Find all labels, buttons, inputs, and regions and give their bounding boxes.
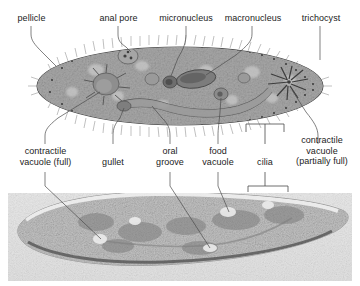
label-line-1: food xyxy=(194,146,242,157)
contractile-vacuole-partial-structure xyxy=(268,66,308,100)
label-line-1: contractile xyxy=(286,135,358,146)
trichocyst-dots xyxy=(49,45,314,127)
leader-oral-groove-up xyxy=(152,106,170,144)
leader-food-vacuole-down xyxy=(218,172,229,212)
food-vacuole-structure xyxy=(145,73,250,100)
label-food-vacuole: food vacuole xyxy=(194,146,242,167)
micrograph-cell-body xyxy=(18,192,348,266)
micronucleus-structure xyxy=(163,76,177,88)
bracket-cilia-illustration xyxy=(246,124,284,144)
label-pellicle: pellicle xyxy=(4,13,59,24)
macronucleus-structure xyxy=(175,67,217,90)
label-line-2: vacuole xyxy=(194,157,242,168)
label-trichocyst: trichocyst xyxy=(290,13,352,24)
leader-pellicle xyxy=(31,26,56,66)
leader-anal-pore xyxy=(118,26,131,52)
leader-lines-bottom-down xyxy=(45,172,288,248)
label-line-1: gullet xyxy=(88,157,138,168)
paramecium-labeled-figure: pellicle anal pore micronucleus macronuc… xyxy=(0,0,360,286)
label-line-1: contractile xyxy=(8,146,83,157)
cell-body xyxy=(37,47,323,125)
bracket-cilia-photograph xyxy=(248,172,288,192)
micrograph-panel xyxy=(8,192,352,281)
label-line-2: vacuole xyxy=(286,146,358,157)
leader-oral-groove-down xyxy=(170,172,210,248)
oral-groove-gullet xyxy=(117,88,272,117)
leader-gullet-up xyxy=(113,108,124,144)
illustration-panel xyxy=(28,35,332,137)
label-contractile-vacuole-partially-full: contractile vacuole (partially full) xyxy=(286,135,358,167)
leader-contractile-vacuole-full-down xyxy=(45,172,101,239)
label-line-2: vacuole (full) xyxy=(8,157,83,168)
label-contractile-vacuole-full: contractile vacuole (full) xyxy=(8,146,83,167)
label-cilia: cilia xyxy=(245,157,285,168)
label-line-2: groove xyxy=(146,157,194,168)
label-macronucleus: macronucleus xyxy=(216,13,290,24)
label-line-1: oral xyxy=(146,146,194,157)
leader-lines-bottom-up xyxy=(45,90,318,144)
cytoplasm-vacuoles xyxy=(66,61,296,108)
leader-food-vacuole-up xyxy=(218,98,221,144)
label-line-1: cilia xyxy=(245,157,285,168)
cilia-fringe xyxy=(28,35,332,137)
anal-pore-structure xyxy=(118,48,138,64)
label-line-3: (partially full) xyxy=(286,156,358,167)
leader-lines-top xyxy=(31,26,320,76)
leader-micronucleus xyxy=(171,26,186,76)
label-anal-pore: anal pore xyxy=(90,13,147,24)
leader-macronucleus xyxy=(206,26,252,75)
label-gullet: gullet xyxy=(88,157,138,168)
label-micronucleus: micronucleus xyxy=(150,13,222,24)
leader-contractile-vacuole-full-up xyxy=(45,92,100,144)
contractile-vacuole-full-structure xyxy=(84,64,130,105)
label-oral-groove: oral groove xyxy=(146,146,194,167)
